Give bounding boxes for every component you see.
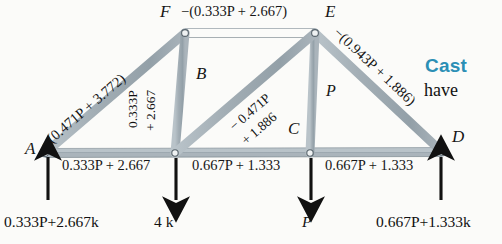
member-top-chord: [185, 29, 315, 38]
force-label-reaction-a: 0.333P+2.667k: [4, 213, 99, 231]
force-label-reaction-d: 0.667P+1.333k: [376, 213, 471, 231]
member-vertical-ec: [310, 33, 315, 153]
truss-diagram-figure: A F E B C D −(0.333P + 2.667) −(0.471P +…: [0, 0, 502, 244]
member-force-EC: P: [326, 83, 336, 100]
member-vertical-fb: [175, 33, 185, 153]
node-label-E: E: [325, 3, 335, 21]
member-force-CD: 0.667P + 1.333: [325, 158, 413, 173]
side-body-text: have: [424, 80, 458, 101]
node-label-A: A: [25, 140, 35, 158]
member-force-AB: 0.333P + 2.667: [62, 158, 150, 173]
node-label-C: C: [288, 120, 299, 138]
node-label-F: F: [160, 3, 170, 21]
side-heading-text: Cast: [425, 55, 467, 77]
node-label-D: D: [452, 128, 464, 146]
member-force-FB-line2: + 2.667: [144, 90, 158, 131]
force-label-load-b: 4 k: [154, 213, 173, 231]
node-label-B: B: [196, 65, 206, 83]
member-force-FE: −(0.333P + 2.667): [181, 4, 287, 19]
force-label-load-c: P: [302, 213, 311, 231]
member-bottom-chord: [45, 148, 442, 158]
member-force-BC: 0.667P + 1.333: [192, 158, 280, 173]
member-force-FB-line1: 0.333P: [126, 90, 140, 128]
